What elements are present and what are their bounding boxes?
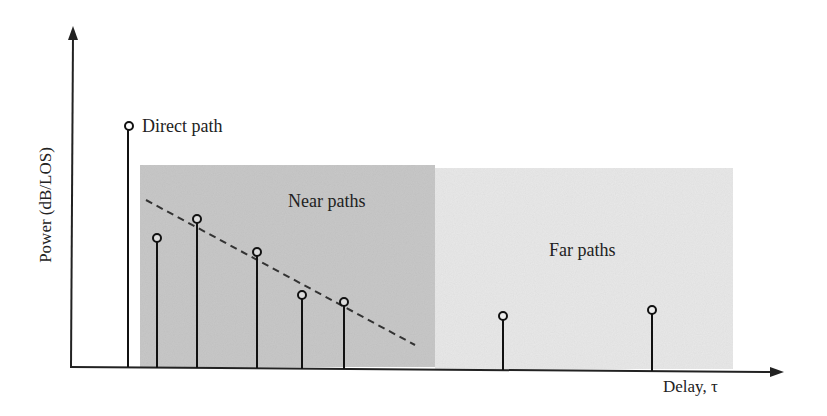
y-axis-arrow-icon (68, 26, 78, 40)
x-axis-arrow-icon (770, 367, 784, 377)
y-axis-label: Power (dB/LOS) (36, 147, 55, 263)
far-paths-region (435, 168, 733, 369)
power-delay-diagram: Near paths Far paths Direct path Delay, … (0, 0, 827, 416)
x-axis-label: Delay, τ (663, 377, 718, 396)
direct-path-label: Direct path (142, 116, 222, 136)
far-paths-label: Far paths (549, 240, 616, 260)
near-paths-label: Near paths (288, 191, 365, 211)
y-axis (71, 36, 73, 367)
direct-path-stem (125, 122, 133, 367)
